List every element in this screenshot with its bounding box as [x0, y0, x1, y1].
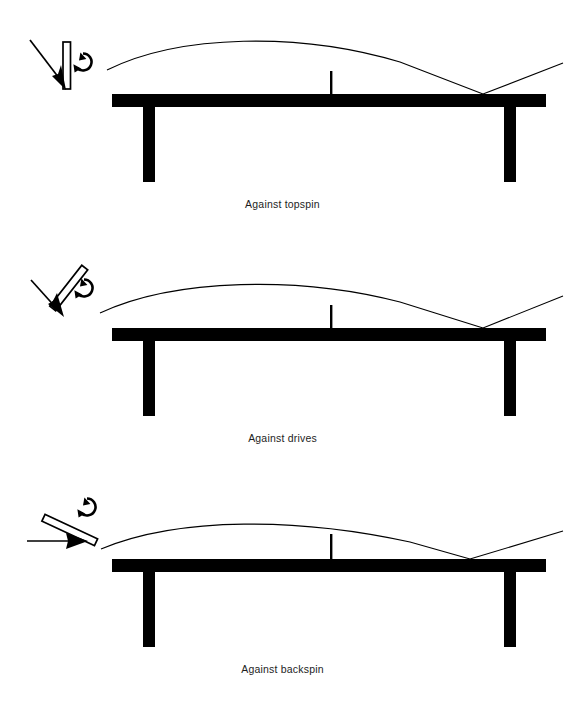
table-leg-right: [504, 107, 516, 182]
net: [330, 305, 332, 329]
table-top: [112, 559, 546, 572]
diagram-page: Against topspin: [0, 0, 565, 711]
caption-against-topspin: Against topspin: [0, 198, 565, 210]
ball-path-rebound: [470, 531, 563, 559]
diagram-svg-topspin: [0, 0, 565, 230]
ball-path-incoming: [101, 524, 470, 559]
table-leg-right: [504, 341, 516, 416]
table-leg-right: [504, 572, 516, 647]
ball-path-rebound: [483, 296, 563, 328]
ball-path-incoming: [107, 41, 483, 94]
table-top: [112, 328, 546, 341]
diagram-against-backspin: Against backspin: [0, 478, 565, 711]
diagram-against-topspin: Against topspin: [0, 0, 565, 230]
diagram-against-drives: Against drives: [0, 240, 565, 470]
ball-path-incoming: [100, 284, 483, 328]
table-leg-left: [143, 341, 155, 416]
net: [330, 71, 332, 95]
anticlockwise-spin-icon: [77, 498, 95, 518]
table-top: [112, 94, 546, 107]
arrow-down-right-icon: [30, 40, 66, 90]
net: [330, 534, 332, 560]
ball-path-rebound: [483, 63, 563, 94]
caption-against-drives: Against drives: [0, 432, 565, 444]
table-leg-left: [143, 107, 155, 182]
diagram-svg-backspin: [0, 478, 565, 711]
clockwise-spin-icon: [73, 53, 91, 73]
caption-against-backspin: Against backspin: [0, 663, 565, 675]
table-leg-left: [143, 572, 155, 647]
